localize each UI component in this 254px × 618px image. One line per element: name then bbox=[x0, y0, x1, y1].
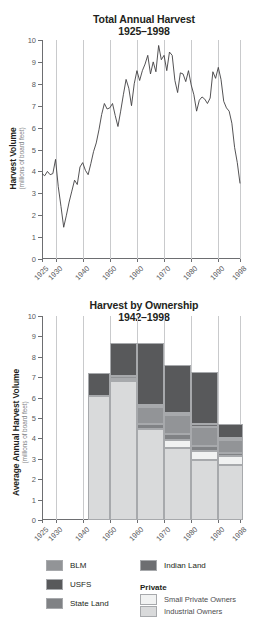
bar-segment-state-land[interactable] bbox=[191, 446, 218, 451]
y-axis-tick bbox=[38, 520, 42, 521]
bar-segment-indian-land[interactable] bbox=[218, 438, 242, 440]
y-axis-tick bbox=[38, 259, 42, 260]
bar-segment-indian-land[interactable] bbox=[191, 424, 218, 427]
y-axis-tick-label: 5 bbox=[32, 145, 36, 154]
bar-segment-usfs[interactable] bbox=[137, 343, 164, 405]
chart-title-line2: 1925–1998 bbox=[34, 26, 254, 38]
bar-segment-state-land[interactable] bbox=[137, 424, 164, 429]
x-axis-tick-label: 1998 bbox=[230, 264, 248, 282]
y-axis-tick-label: 0 bbox=[32, 255, 36, 264]
legend-group-title-private: Private bbox=[140, 583, 167, 592]
legend-swatch-small-private-owners bbox=[140, 594, 157, 605]
y-axis-tick bbox=[38, 316, 42, 317]
x-axis-tick-label: 1940 bbox=[73, 525, 91, 543]
x-axis-tick bbox=[218, 520, 219, 523]
bar-segment-state-land[interactable] bbox=[218, 453, 242, 456]
bar-segment-state-land[interactable] bbox=[110, 379, 137, 381]
y-axis-tick-label: 4 bbox=[32, 434, 36, 443]
chart-title-total-annual-harvest: Total Annual Harvest 1925–1998 bbox=[34, 14, 254, 37]
bar-segment-usfs[interactable] bbox=[88, 373, 110, 395]
bar-segment-indian-land[interactable] bbox=[137, 405, 164, 407]
x-axis-tick-label: 1980 bbox=[181, 525, 199, 543]
x-axis-tick bbox=[110, 259, 111, 262]
x-axis-tick bbox=[240, 520, 241, 523]
y-axis-tick bbox=[38, 336, 42, 337]
x-axis-tick-label: 1930 bbox=[46, 525, 64, 543]
bar-segment-industrial-owners[interactable] bbox=[164, 448, 191, 520]
bar-segment-blm[interactable] bbox=[191, 427, 218, 445]
y-axis-title-top: Harvest Volume (millions of board feet) bbox=[8, 99, 25, 219]
y-axis-tick bbox=[38, 438, 42, 439]
bar-segment-blm[interactable] bbox=[110, 376, 137, 379]
x-axis-tick bbox=[137, 520, 138, 523]
bar-stack[interactable] bbox=[88, 316, 110, 520]
harvest-by-ownership-chart: Harvest by Ownership 1942–1998 Average A… bbox=[0, 290, 254, 555]
y-axis-tick-label: 2 bbox=[32, 475, 36, 484]
y-axis-tick-label: 6 bbox=[32, 123, 36, 132]
x-axis-tick bbox=[83, 520, 84, 523]
bar-segment-usfs[interactable] bbox=[164, 365, 191, 413]
bar-segment-blm[interactable] bbox=[164, 415, 191, 434]
x-axis-tick bbox=[164, 520, 165, 523]
legend-swatch-indian-land bbox=[140, 560, 157, 571]
bar-segment-state-land[interactable] bbox=[164, 434, 191, 440]
bar-segment-indian-land[interactable] bbox=[164, 413, 191, 415]
bar-segment-blm[interactable] bbox=[218, 440, 242, 452]
y-axis-tick bbox=[38, 479, 42, 480]
y-axis-tick bbox=[38, 398, 42, 399]
bar-stack[interactable] bbox=[164, 316, 191, 520]
y-axis-tick-label: 3 bbox=[32, 189, 36, 198]
legend-label-state-land: State Land bbox=[70, 598, 109, 609]
bar-segment-small-private-owners[interactable] bbox=[218, 456, 242, 465]
y-axis-tick bbox=[38, 500, 42, 501]
x-axis-tick bbox=[137, 259, 138, 262]
x-axis-tick-label: 1960 bbox=[127, 264, 145, 282]
legend-swatch-industrial-owners bbox=[140, 606, 157, 617]
total-annual-harvest-chart: Total Annual Harvest 1925–1998 Harvest V… bbox=[0, 0, 254, 290]
bar-segment-industrial-owners[interactable] bbox=[88, 396, 110, 520]
x-axis-tick bbox=[42, 520, 43, 523]
gridline bbox=[240, 40, 241, 259]
gridline bbox=[83, 316, 84, 520]
bar-segment-industrial-owners[interactable] bbox=[191, 460, 218, 520]
bar-segment-blm[interactable] bbox=[137, 407, 164, 424]
x-axis-tick bbox=[240, 259, 241, 262]
bar-segment-industrial-owners[interactable] bbox=[137, 429, 164, 520]
y-axis-tick-label: 0 bbox=[32, 516, 36, 525]
x-axis-tick bbox=[56, 520, 57, 523]
bar-segment-industrial-owners[interactable] bbox=[218, 465, 242, 520]
y-axis-tick-label: 10 bbox=[28, 36, 36, 45]
bar-stack[interactable] bbox=[110, 316, 137, 520]
bar-segment-small-private-owners[interactable] bbox=[191, 451, 218, 460]
y-axis-tick-label: 2 bbox=[32, 211, 36, 220]
x-axis-tick bbox=[191, 520, 192, 523]
y-axis-tick bbox=[38, 418, 42, 419]
y-axis-title-bottom: Average Annual Harvest Volume (millions … bbox=[11, 358, 28, 508]
x-axis-tick-label: 1940 bbox=[73, 264, 91, 282]
bar-segment-small-private-owners[interactable] bbox=[164, 440, 191, 447]
bar-segment-industrial-owners[interactable] bbox=[110, 381, 137, 520]
x-axis-tick-label: 1990 bbox=[208, 525, 226, 543]
bar-segment-usfs[interactable] bbox=[191, 372, 218, 424]
y-axis-tick-label: 9 bbox=[32, 332, 36, 341]
bar-stack[interactable] bbox=[191, 316, 218, 520]
legend-label-blm: BLM bbox=[70, 560, 86, 571]
x-axis-tick bbox=[56, 259, 57, 262]
legend-swatch-state-land bbox=[46, 598, 63, 609]
legend-swatch-blm bbox=[46, 560, 63, 571]
legend-label-indian-land: Indian Land bbox=[164, 560, 206, 571]
x-axis-tick-label: 1990 bbox=[208, 264, 226, 282]
bar-stack[interactable] bbox=[218, 316, 242, 520]
bar-segment-usfs[interactable] bbox=[218, 424, 242, 438]
bar-stack[interactable] bbox=[137, 316, 164, 520]
y-axis-tick-label: 10 bbox=[28, 312, 36, 321]
bar-segment-usfs[interactable] bbox=[110, 343, 137, 377]
chart-title-line1-bottom: Harvest by Ownership bbox=[90, 299, 199, 311]
legend-label-usfs: USFS bbox=[70, 579, 91, 590]
y-axis-tick bbox=[38, 357, 42, 358]
y-axis-tick-label: 4 bbox=[32, 167, 36, 176]
y-axis-tick bbox=[38, 377, 42, 378]
x-axis-tick bbox=[83, 259, 84, 262]
y-axis-tick-label: 1 bbox=[32, 495, 36, 504]
y-axis-tick-label: 7 bbox=[32, 101, 36, 110]
